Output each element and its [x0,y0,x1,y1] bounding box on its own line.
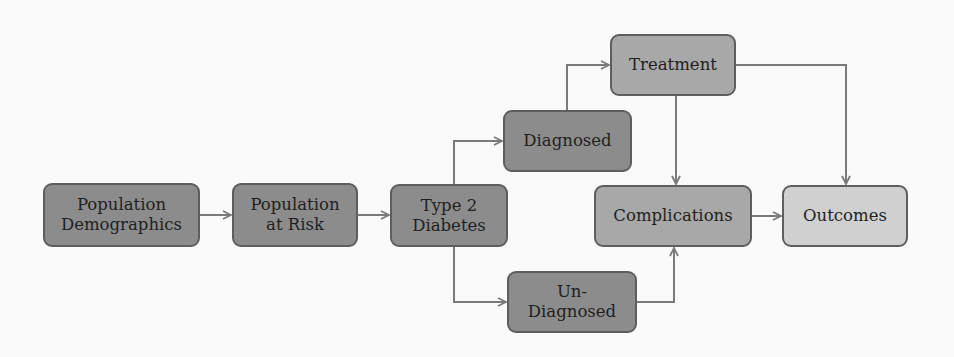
arrow-undiagnosed-to-complications [637,248,674,302]
diagram-canvas: Population Demographics Population at Ri… [0,0,954,357]
node-label: Treatment [629,55,717,75]
node-population-at-risk: Population at Risk [232,183,358,247]
node-label: Type 2 Diabetes [412,196,486,236]
node-treatment: Treatment [610,34,736,96]
node-diagnosed: Diagnosed [503,110,632,172]
node-outcomes: Outcomes [782,185,908,247]
connector-layer [0,0,954,357]
arrow-type2-to-undiagnosed [454,247,506,302]
node-type2-diabetes: Type 2 Diabetes [390,184,508,247]
node-label: Diagnosed [523,131,611,151]
node-label: Population Demographics [61,195,182,235]
node-undiagnosed: Un- Diagnosed [507,271,637,333]
node-population-demographics: Population Demographics [43,183,200,247]
node-label: Population at Risk [250,195,339,235]
arrow-diagnosed-to-treatment [567,65,609,110]
node-label: Un- Diagnosed [528,282,616,322]
node-complications: Complications [594,185,752,247]
node-label: Complications [613,206,732,226]
arrow-type2-to-diagnosed [454,141,502,184]
arrow-treatment-to-outcomes [736,65,846,184]
node-label: Outcomes [803,206,887,226]
